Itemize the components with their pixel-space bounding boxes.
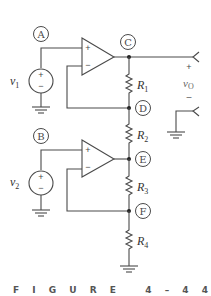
output-plus-sign: +: [186, 62, 191, 72]
label-v2: v2: [10, 175, 19, 191]
output-minus-sign: –: [186, 92, 191, 102]
wire-a-to-plus1: [41, 48, 82, 68]
wire-feedback-1: [67, 66, 129, 108]
svg-text:A: A: [36, 29, 45, 40]
op-amp-1: + −: [82, 38, 114, 75]
resistor-r1: [126, 57, 132, 108]
label-r1: R1: [136, 78, 148, 94]
svg-text:+: +: [38, 70, 43, 80]
resistor-r4: [126, 211, 132, 266]
node-d: D: [136, 101, 151, 116]
label-r3: R3: [136, 180, 148, 196]
node-e: E: [136, 152, 151, 167]
svg-text:D: D: [139, 103, 147, 114]
output-terminal-minus: [193, 107, 199, 116]
node-f: F: [136, 204, 151, 219]
voltage-source-v2: + −: [29, 171, 53, 195]
op-amp-2: + −: [82, 140, 114, 177]
svg-text:B: B: [37, 131, 44, 142]
voltage-source-v1: + −: [29, 69, 53, 93]
label-v1: v1: [10, 74, 19, 90]
figure-caption: F I G U R E 4 – 4 4: [13, 285, 211, 295]
label-vo: vO: [183, 77, 194, 91]
svg-text:F: F: [140, 206, 147, 217]
svg-text:+: +: [38, 172, 43, 182]
resistor-r2: [126, 108, 132, 159]
node-b: B: [34, 129, 49, 144]
wire-output-ground: [176, 111, 193, 132]
node-c: C: [121, 35, 136, 50]
ground-icon-r4: [120, 266, 138, 272]
svg-text:−: −: [85, 60, 90, 70]
svg-text:−: −: [38, 81, 43, 91]
svg-text:C: C: [124, 37, 132, 48]
svg-text:+: +: [85, 43, 90, 53]
ground-icon: [32, 107, 50, 113]
wire-feedback-2: [67, 169, 129, 211]
label-r4: R4: [136, 234, 148, 250]
svg-text:E: E: [139, 154, 146, 165]
ground-icon-2: [32, 210, 50, 216]
resistor-r3: [126, 159, 132, 211]
svg-text:−: −: [38, 183, 43, 193]
svg-text:+: +: [85, 145, 90, 155]
label-r2: R2: [136, 128, 148, 144]
output-terminal-plus: [193, 52, 199, 62]
ground-icon-output: [167, 132, 185, 138]
node-a: A: [34, 27, 49, 42]
svg-text:−: −: [85, 162, 90, 172]
circuit-diagram: A + − v1 + − C R1 D + vO –: [0, 0, 211, 296]
wire-b-to-plus2: [41, 150, 82, 170]
